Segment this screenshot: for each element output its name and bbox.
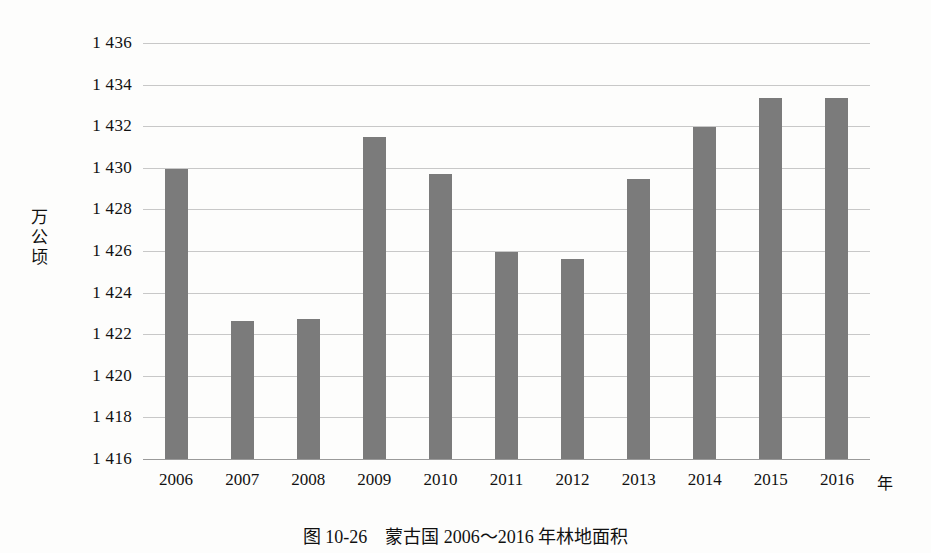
y-tick-label: 1 424 — [92, 283, 132, 303]
x-tick-label-2009: 2009 — [357, 470, 391, 490]
figure-caption-number: 图 10-26 — [303, 527, 368, 547]
plot-area — [143, 43, 870, 459]
y-axis-tick-labels: 1 4361 4341 4321 4301 4281 4261 4241 422… — [0, 43, 132, 459]
x-tick-label-2012: 2012 — [556, 470, 590, 490]
x-tick-label-2015: 2015 — [754, 470, 788, 490]
y-tick-label: 1 420 — [92, 366, 132, 386]
bar-series — [143, 43, 870, 459]
y-tick-label: 1 430 — [92, 158, 132, 178]
x-tick-label-2016: 2016 — [820, 470, 854, 490]
y-tick-label: 1 422 — [92, 324, 132, 344]
bar-2011 — [495, 252, 518, 459]
x-axis-unit-label: 年 — [877, 470, 893, 494]
bar-2013 — [627, 179, 650, 459]
x-tick-label-2008: 2008 — [291, 470, 325, 490]
bar-2014 — [693, 127, 716, 459]
x-tick-label-2014: 2014 — [688, 470, 722, 490]
bar-2012 — [561, 259, 584, 459]
figure-page: 万 公 顷 1 4361 4341 4321 4301 4281 4261 42… — [0, 0, 931, 553]
bar-2007 — [231, 321, 254, 459]
x-tick-label-2007: 2007 — [225, 470, 259, 490]
y-tick-label: 1 428 — [92, 199, 132, 219]
bar-2009 — [363, 137, 386, 459]
x-tick-label-2006: 2006 — [159, 470, 193, 490]
x-tick-label-2010: 2010 — [423, 470, 457, 490]
bar-2008 — [297, 319, 320, 459]
figure-caption-title: 蒙古国 2006～2016 年林地面积 — [385, 527, 628, 547]
y-tick-label: 1 426 — [92, 241, 132, 261]
y-tick-label: 1 434 — [92, 75, 132, 95]
bar-2010 — [429, 174, 452, 459]
bar-2015 — [759, 98, 782, 459]
bar-2016 — [825, 98, 848, 459]
bar-2006 — [165, 169, 188, 459]
gridline — [143, 459, 870, 460]
x-tick-label-2013: 2013 — [622, 470, 656, 490]
y-tick-label: 1 416 — [92, 449, 132, 469]
y-tick-label: 1 436 — [92, 33, 132, 53]
x-tick-label-2011: 2011 — [490, 470, 523, 490]
x-axis-tick-labels: 2006200720082009201020112012201320142015… — [143, 470, 870, 496]
y-tick-label: 1 418 — [92, 407, 132, 427]
figure-caption: 图 10-26蒙古国 2006～2016 年林地面积 — [0, 522, 931, 548]
y-tick-label: 1 432 — [92, 116, 132, 136]
